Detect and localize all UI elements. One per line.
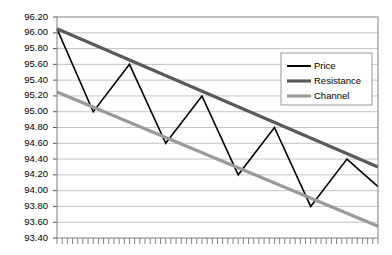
x-axis-tick-marks	[57, 238, 378, 244]
y-axis-label: 96.20	[24, 11, 48, 22]
y-axis-label: 95.20	[24, 89, 48, 100]
legend-label-resistance: Resistance	[314, 75, 361, 86]
y-axis-label: 93.40	[24, 232, 48, 243]
legend-label-price: Price	[314, 60, 336, 71]
y-axis-label: 95.40	[24, 74, 48, 85]
legend-label-channel: Channel	[314, 90, 349, 101]
y-axis-label: 94.80	[24, 121, 48, 132]
y-axis-label: 94.20	[24, 168, 48, 179]
y-axis-tick-marks	[53, 17, 57, 238]
y-axis-label: 95.80	[24, 42, 48, 53]
price-channel-chart: 96.2096.0095.8095.6095.4095.2095.0094.80…	[0, 0, 392, 255]
chart-legend: PriceResistanceChannel	[281, 53, 372, 105]
y-axis-label: 94.40	[24, 153, 48, 164]
y-axis-label: 94.60	[24, 137, 48, 148]
y-axis-label: 93.80	[24, 200, 48, 211]
y-axis-tick-labels: 96.2096.0095.8095.6095.4095.2095.0094.80…	[24, 11, 48, 243]
y-axis-label: 95.60	[24, 58, 48, 69]
y-axis-label: 95.00	[24, 105, 48, 116]
y-axis-label: 94.00	[24, 184, 48, 195]
chart-container: 96.2096.0095.8095.6095.4095.2095.0094.80…	[0, 0, 392, 255]
y-axis-label: 96.00	[24, 26, 48, 37]
y-axis-label: 93.60	[24, 216, 48, 227]
